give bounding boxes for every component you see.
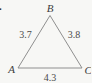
- triangle-canvas: . B A C 3.7 3.8 4.3: [0, 0, 91, 83]
- triangle-figure: . B A C 3.7 3.8 4.3: [0, 0, 91, 83]
- vertex-label-a: A: [7, 63, 15, 75]
- vertex-label-c: C: [85, 64, 92, 76]
- problem-number-period: .: [0, 0, 2, 12]
- side-label-ab: 3.7: [19, 29, 32, 40]
- side-label-ac: 4.3: [44, 72, 57, 83]
- vertex-label-b: B: [47, 2, 54, 14]
- triangle-outline: [18, 16, 82, 69]
- side-label-bc: 3.8: [68, 29, 81, 40]
